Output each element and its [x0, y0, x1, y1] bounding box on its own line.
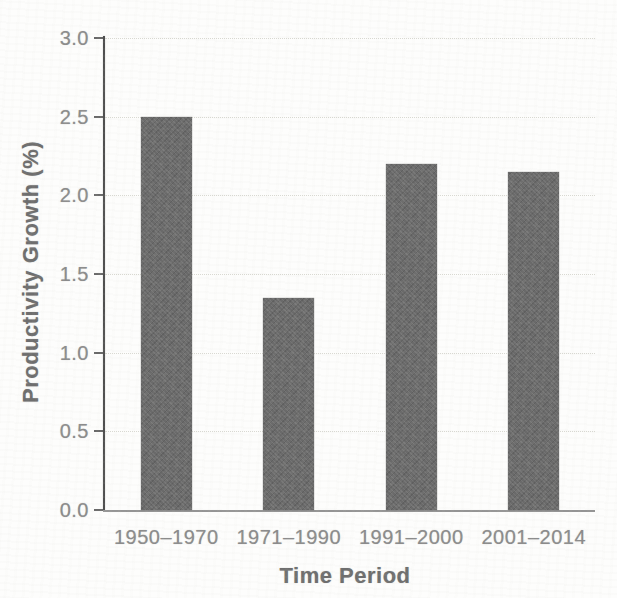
y-axis-tick — [94, 37, 103, 39]
y-tick-label: 1.5 — [45, 263, 89, 286]
y-axis-tick — [94, 430, 103, 432]
x-tick-label: 1950–1970 — [114, 526, 219, 549]
x-axis-title: Time Period — [279, 563, 410, 589]
gridline — [105, 38, 595, 39]
plot-area: 0.00.51.01.52.02.53.01950–19701971–19901… — [105, 38, 595, 510]
y-axis-tick — [94, 194, 103, 196]
bar — [141, 117, 192, 510]
y-tick-label: 2.5 — [45, 105, 89, 128]
y-axis-tick — [94, 116, 103, 118]
y-tick-label: 3.0 — [45, 27, 89, 50]
x-tick-label: 1971–1990 — [236, 526, 341, 549]
y-tick-label: 0.0 — [45, 499, 89, 522]
x-tick-label: 2001–2014 — [481, 526, 586, 549]
y-axis-title: Productivity Growth (%) — [18, 141, 44, 403]
bar-chart-figure: Productivity Growth (%) 0.00.51.01.52.02… — [0, 0, 617, 598]
y-tick-label: 1.0 — [45, 341, 89, 364]
y-tick-label: 2.0 — [45, 184, 89, 207]
y-tick-label: 0.5 — [45, 420, 89, 443]
y-axis-tick — [94, 352, 103, 354]
y-axis-line — [103, 36, 105, 510]
x-axis-baseline — [103, 510, 595, 512]
y-axis-tick — [94, 273, 103, 275]
bar — [508, 172, 559, 510]
x-tick-label: 1991–2000 — [359, 526, 464, 549]
y-axis-tick — [94, 509, 103, 511]
bar — [386, 164, 437, 510]
bar — [263, 298, 314, 510]
